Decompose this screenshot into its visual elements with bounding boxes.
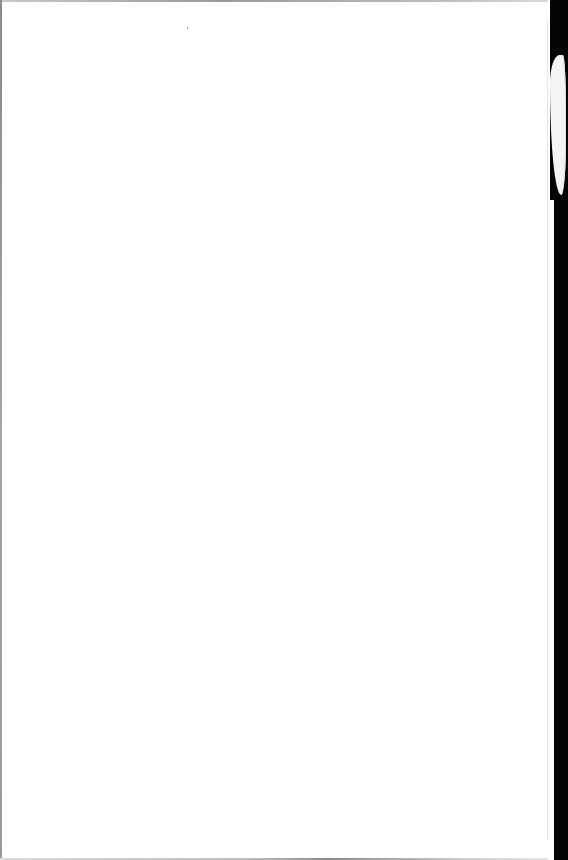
page-left-edge [0,0,2,860]
blank-scanned-page [0,0,568,860]
page-top-edge [0,0,548,2]
page-fold-line [547,20,548,840]
scan-speck [187,27,188,29]
